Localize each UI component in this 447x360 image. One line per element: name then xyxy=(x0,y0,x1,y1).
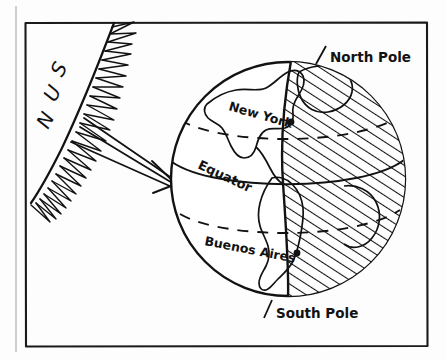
south-pole-label: South Pole xyxy=(276,305,358,321)
north-pole-label: North Pole xyxy=(330,49,411,65)
diagram-svg: S U N xyxy=(0,0,447,360)
diagram-canvas: S U N xyxy=(0,0,447,360)
